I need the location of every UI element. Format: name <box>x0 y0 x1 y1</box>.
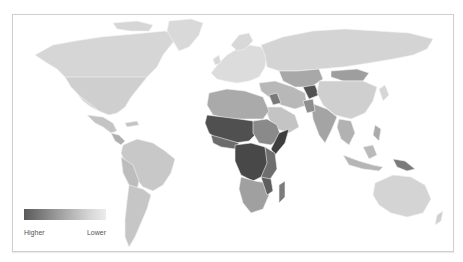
legend-label-lower: Lower <box>87 229 106 236</box>
region-greenland[interactable] <box>167 19 203 51</box>
region-philippines[interactable] <box>373 125 381 141</box>
region-borneo[interactable] <box>363 145 377 159</box>
region-usa[interactable] <box>65 77 147 115</box>
region-papua-new-guinea[interactable] <box>393 159 415 171</box>
region-indochina[interactable] <box>337 119 355 145</box>
cropped-header-text <box>0 0 463 6</box>
region-russia[interactable] <box>261 29 433 71</box>
region-north-africa[interactable] <box>207 89 269 119</box>
region-indonesia[interactable] <box>343 155 383 171</box>
map-frame: Higher Lower <box>12 14 454 252</box>
region-mongolia[interactable] <box>331 69 369 81</box>
legend-gradient-bar <box>24 209 106 220</box>
region-madagascar[interactable] <box>279 181 285 203</box>
region-korea-japan[interactable] <box>379 85 389 101</box>
region-canada-islands[interactable] <box>113 21 153 31</box>
region-uk[interactable] <box>213 55 221 65</box>
region-central-america[interactable] <box>111 133 125 145</box>
region-pakistan[interactable] <box>303 99 315 113</box>
region-australia[interactable] <box>373 175 431 217</box>
legend-label-higher: Higher <box>24 229 45 236</box>
map-legend: Higher Lower <box>24 209 106 239</box>
region-new-zealand[interactable] <box>435 211 443 225</box>
region-south-america-south[interactable] <box>125 185 151 247</box>
region-mexico[interactable] <box>87 115 117 133</box>
region-caribbean[interactable] <box>125 121 139 127</box>
